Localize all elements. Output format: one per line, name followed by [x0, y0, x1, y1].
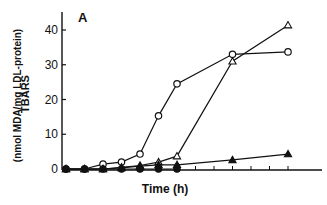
data-point-circle [100, 166, 106, 172]
y-tick-label: 0 [51, 162, 58, 176]
y-axis-units: (nmol MDA/mg LDL-protein) [12, 21, 23, 171]
data-point-circle [63, 166, 69, 172]
data-point-circle [155, 166, 161, 172]
data-point-triangle [173, 153, 180, 159]
series-line [66, 25, 288, 169]
chart-plot: 010203040 [0, 0, 327, 205]
data-point-triangle [284, 22, 291, 28]
x-axis-title: Time (h) [120, 182, 210, 196]
data-point-triangle [284, 150, 291, 156]
data-point-circle [285, 49, 291, 55]
data-point-circle [174, 81, 180, 87]
data-point-circle [118, 166, 124, 172]
data-point-circle [155, 113, 161, 119]
data-point-circle [137, 166, 143, 172]
data-point-circle [229, 51, 235, 57]
data-point-circle [174, 166, 180, 172]
y-tick-label: 30 [45, 58, 59, 72]
data-point-triangle [229, 58, 236, 64]
series-line [66, 52, 288, 169]
y-tick-label: 20 [45, 93, 59, 107]
y-tick-label: 10 [45, 127, 59, 141]
panel-label: A [78, 10, 87, 25]
data-point-circle [137, 151, 143, 157]
data-point-circle [81, 166, 87, 172]
y-tick-label: 40 [45, 23, 59, 37]
